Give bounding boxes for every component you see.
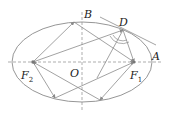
label-b: B xyxy=(83,8,92,21)
label-f1: F1 xyxy=(129,69,142,84)
label-d: D xyxy=(118,16,128,29)
tangent-line xyxy=(100,17,156,45)
focus-f1-point xyxy=(133,61,136,64)
label-o: O xyxy=(70,67,79,80)
focus-f2-point xyxy=(31,60,35,64)
label-a: A xyxy=(151,50,160,63)
label-f2: F2 xyxy=(20,69,33,84)
light-rays xyxy=(33,22,134,100)
ellipse-diagram: B D A O F2 F1 xyxy=(0,0,170,115)
